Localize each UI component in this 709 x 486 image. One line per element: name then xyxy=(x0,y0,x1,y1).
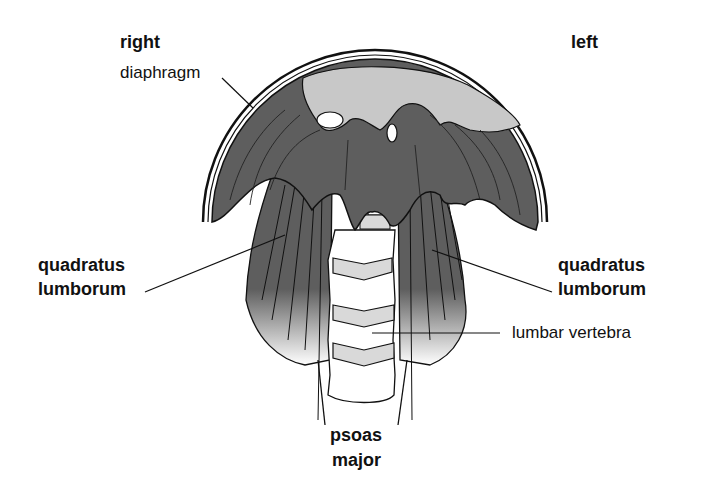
label-lumbar-vertebra: lumbar vertebra xyxy=(512,323,632,342)
label-major: major xyxy=(332,450,381,470)
label-psoas: psoas xyxy=(330,425,382,445)
label-quadratus-left-2: lumborum xyxy=(558,279,646,299)
label-quadratus-right-2: lumborum xyxy=(38,279,126,299)
label-left: left xyxy=(571,32,598,52)
label-quadratus-right-1: quadratus xyxy=(38,255,125,275)
anatomy-diagram: right left diaphragm quadratus lumborum … xyxy=(0,0,709,486)
quadratus-lumborum-right-muscle xyxy=(246,175,332,420)
label-right: right xyxy=(120,32,160,52)
diaphragm-leader xyxy=(222,78,253,108)
label-diaphragm: diaphragm xyxy=(120,63,200,82)
label-quadratus-left-1: quadratus xyxy=(558,255,645,275)
diaphragm-muscle xyxy=(212,59,538,230)
